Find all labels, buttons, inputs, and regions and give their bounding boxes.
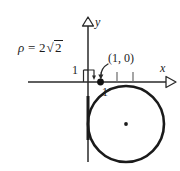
radical-sign-icon: √ (47, 40, 54, 55)
equation-coefficient: 2 (39, 40, 46, 55)
point-label-1-0: (1, 0) (108, 52, 134, 64)
equation-equals: = (28, 40, 36, 55)
x-axis-label: x (160, 62, 165, 74)
diagram-canvas (0, 0, 180, 171)
y-axis-label: y (95, 16, 100, 28)
polar-circle-diagram: ρ = 2√2 y x 1 1 (1, 0) (0, 0, 180, 171)
one-tick-hook-arrowhead-icon (92, 76, 96, 81)
equation-radicand: 2 (54, 40, 63, 54)
annotation-arrowhead-icon (98, 75, 103, 80)
x-tick-label-one: 1 (102, 86, 108, 98)
y-axis-arrowhead-icon (83, 17, 94, 26)
x-axis-arrowhead-icon (166, 77, 176, 88)
equation-label: ρ = 2√2 (18, 40, 63, 54)
circle-center-dot (124, 122, 128, 126)
equation-radical: √2 (46, 40, 63, 54)
annotation-arrow (101, 64, 108, 76)
y-tick-label-one: 1 (72, 64, 78, 76)
